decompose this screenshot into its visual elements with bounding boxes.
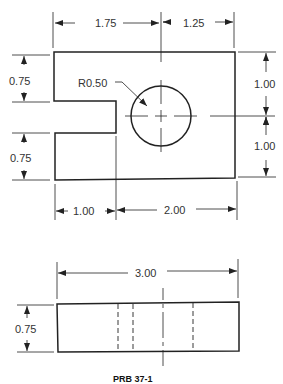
front-dimension-lines [27, 271, 237, 351]
center-lines [125, 12, 275, 152]
dim-radius: R0.50 [78, 77, 107, 89]
front-outline [57, 302, 239, 352]
dim-left-upper: 0.75 [9, 75, 30, 87]
dim-bottom-right: 2.00 [164, 204, 185, 216]
dim-top-right: 1.25 [183, 17, 204, 29]
front-view [17, 259, 239, 366]
figure-caption: PRB 37-1 [113, 374, 153, 384]
dim-right-upper: 1.00 [254, 78, 275, 90]
dim-front-height: 0.75 [15, 323, 36, 335]
dim-front-width: 3.00 [135, 267, 156, 279]
dim-left-lower: 0.75 [10, 152, 31, 164]
dim-bottom-left: 1.00 [73, 205, 94, 217]
dim-right-lower: 1.00 [254, 140, 275, 152]
dimension-lines [24, 22, 266, 211]
top-view [12, 12, 276, 220]
dim-top-left: 1.75 [95, 17, 116, 29]
hidden-lines [118, 303, 193, 351]
engineering-drawing: 1.75 1.25 1.00 1.00 0.75 0.75 1.00 2.00 … [0, 0, 283, 384]
